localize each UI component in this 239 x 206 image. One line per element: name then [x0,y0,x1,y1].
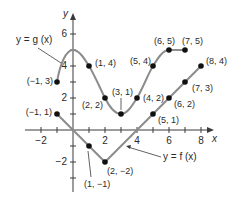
point-label: (5, 4) [130,56,151,66]
point-label: (−1, 1) [26,107,52,117]
point-label: (4, 2) [143,93,164,103]
g-function-label: y = g (x) [16,34,52,45]
y-tick-label: 6 [61,28,67,39]
point-label: (6, 5) [154,36,175,46]
y-tick-label: 2 [61,92,67,103]
x-axis: −2 2 4 6 8 x [25,127,218,146]
point-label: (1, −1) [84,179,110,189]
point-label: (7, 5) [182,36,203,46]
y-tick-label: −2 [56,156,68,167]
point-label: (5, 1) [158,115,179,125]
point-label: (−1, 3) [27,76,53,86]
leader-line [88,151,91,177]
f-points [54,63,204,165]
arrowhead-icon [126,145,131,149]
x-tick-label: −2 [35,135,47,146]
leader-line [128,147,161,157]
f-function-label: y = f (x) [163,151,197,162]
point-label: (6, 2) [174,99,195,109]
function-graph: −2 2 4 6 8 x −2 2 4 6 y [0,0,239,206]
x-axis-label: x [211,133,218,144]
point-label: (2, −2) [107,166,133,176]
y-axis-label: y [62,8,69,19]
point-label: (2, 2) [82,100,103,110]
point-label: (3, 1) [112,87,133,97]
y-axis-arrow-icon [70,13,76,20]
x-tick-label: 2 [102,135,108,146]
point-label: (1, 4) [95,58,116,68]
point-label: (7, 3) [192,83,213,93]
point-label: (8, 4) [206,56,227,66]
x-tick-label: 4 [134,135,140,146]
leader-line [38,48,61,63]
x-tick-label: 6 [166,135,172,146]
y-axis: −2 2 4 6 y [56,8,76,192]
x-tick-label: 8 [198,135,204,146]
